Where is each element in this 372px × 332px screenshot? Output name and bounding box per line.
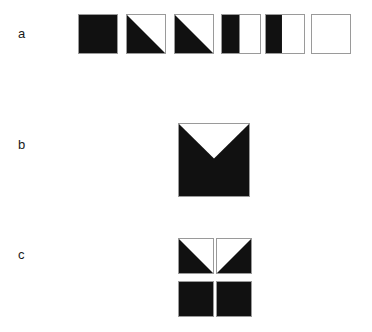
- square-a6-fill: [312, 15, 350, 53]
- square-a3-fill: [175, 15, 213, 53]
- square-a6: [311, 14, 351, 54]
- square-b1: [178, 123, 250, 197]
- square-a1-fill: [79, 15, 117, 53]
- square-c-bottom-left-fill: [179, 282, 213, 316]
- square-c-top-left-fill: [179, 239, 213, 273]
- square-a5-fill: [266, 15, 304, 53]
- figure-canvas: a: [0, 0, 372, 332]
- square-c-top-right-fill: [217, 239, 251, 273]
- row-label-c: c: [18, 248, 25, 261]
- square-a5: [265, 14, 305, 54]
- square-c-bottom-right-fill: [217, 282, 251, 316]
- row-label-a: a: [18, 27, 25, 40]
- row-label-b: b: [18, 138, 25, 151]
- square-a4: [221, 14, 261, 54]
- square-a4-fill: [222, 15, 260, 53]
- square-a3: [174, 14, 214, 54]
- square-c-bottom-left: [178, 281, 214, 317]
- square-a2-fill: [127, 15, 165, 53]
- square-c-top-left: [178, 238, 214, 274]
- square-b1-fill: [179, 124, 249, 196]
- square-c-bottom-right: [216, 281, 252, 317]
- square-c-top-right: [216, 238, 252, 274]
- square-a1: [78, 14, 118, 54]
- square-a2: [126, 14, 166, 54]
